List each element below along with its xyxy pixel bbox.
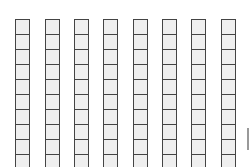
edge-marker <box>247 128 249 150</box>
grid-cell[interactable] <box>162 154 177 167</box>
grid-cell[interactable] <box>103 154 118 167</box>
grid-cell[interactable] <box>133 109 148 125</box>
grid-cell[interactable] <box>45 109 60 125</box>
grid-cell[interactable] <box>103 124 118 140</box>
grid-cell[interactable] <box>45 64 60 80</box>
grid-cell[interactable] <box>162 109 177 125</box>
grid-cell[interactable] <box>221 79 236 95</box>
grid-cell[interactable] <box>221 94 236 110</box>
grid-cell[interactable] <box>15 49 30 65</box>
grid-column <box>45 20 59 167</box>
grid-cell[interactable] <box>103 139 118 155</box>
grid-cell[interactable] <box>45 34 60 50</box>
grid-cell[interactable] <box>162 49 177 65</box>
grid-column <box>103 20 117 167</box>
grid-column <box>133 20 147 167</box>
grid-cell[interactable] <box>45 124 60 140</box>
grid-cell[interactable] <box>15 94 30 110</box>
grid-cell[interactable] <box>191 109 206 125</box>
grid-cell[interactable] <box>191 49 206 65</box>
grid-cell[interactable] <box>221 109 236 125</box>
grid-cell[interactable] <box>45 139 60 155</box>
grid-column <box>221 20 235 167</box>
grid-cell[interactable] <box>221 139 236 155</box>
grid-cell[interactable] <box>15 19 30 35</box>
grid-cell[interactable] <box>15 154 30 167</box>
grid-cell[interactable] <box>74 79 89 95</box>
grid-cell[interactable] <box>191 34 206 50</box>
grid-cell[interactable] <box>191 139 206 155</box>
grid-column <box>74 20 88 167</box>
grid-cell[interactable] <box>74 139 89 155</box>
grid-cell[interactable] <box>162 94 177 110</box>
grid-cell[interactable] <box>15 34 30 50</box>
grid-cell[interactable] <box>162 139 177 155</box>
grid-column <box>15 20 29 167</box>
grid-cell[interactable] <box>45 154 60 167</box>
grid-cell[interactable] <box>221 49 236 65</box>
grid-cell[interactable] <box>133 94 148 110</box>
grid-cell[interactable] <box>15 109 30 125</box>
grid-cell[interactable] <box>45 94 60 110</box>
grid-cell[interactable] <box>133 19 148 35</box>
grid-cell[interactable] <box>74 19 89 35</box>
grid-cell[interactable] <box>162 34 177 50</box>
grid-cell[interactable] <box>45 79 60 95</box>
grid-cell[interactable] <box>74 49 89 65</box>
grid-cell[interactable] <box>15 64 30 80</box>
grid-cell[interactable] <box>162 79 177 95</box>
grid-cell[interactable] <box>103 109 118 125</box>
grid-cell[interactable] <box>162 19 177 35</box>
grid-cell[interactable] <box>15 79 30 95</box>
grid-cell[interactable] <box>162 64 177 80</box>
grid-cell[interactable] <box>74 154 89 167</box>
grid-cell[interactable] <box>191 19 206 35</box>
grid-cell[interactable] <box>133 34 148 50</box>
grid-cell[interactable] <box>162 124 177 140</box>
grid-cell[interactable] <box>221 64 236 80</box>
grid-column <box>162 20 176 167</box>
grid-cell[interactable] <box>74 34 89 50</box>
grid-cell[interactable] <box>133 124 148 140</box>
grid-cell[interactable] <box>191 154 206 167</box>
grid-cell[interactable] <box>74 109 89 125</box>
grid-cell[interactable] <box>191 94 206 110</box>
grid-cell[interactable] <box>221 34 236 50</box>
grid-column <box>191 20 205 167</box>
grid-cell[interactable] <box>15 139 30 155</box>
grid-cell[interactable] <box>133 64 148 80</box>
grid-cell[interactable] <box>103 79 118 95</box>
grid-cell[interactable] <box>191 64 206 80</box>
grid-cell[interactable] <box>45 19 60 35</box>
grid-cell[interactable] <box>103 34 118 50</box>
grid-cell[interactable] <box>103 49 118 65</box>
grid-cell[interactable] <box>103 64 118 80</box>
grid-cell[interactable] <box>133 139 148 155</box>
grid-cell[interactable] <box>133 49 148 65</box>
grid-cell[interactable] <box>45 49 60 65</box>
grid-cell[interactable] <box>221 124 236 140</box>
grid-cell[interactable] <box>15 124 30 140</box>
grid-cell[interactable] <box>74 94 89 110</box>
grid-cell[interactable] <box>74 124 89 140</box>
grid-cell[interactable] <box>103 94 118 110</box>
grid-cell[interactable] <box>133 154 148 167</box>
grid-cell[interactable] <box>221 19 236 35</box>
grid-cell[interactable] <box>133 79 148 95</box>
grid-cell[interactable] <box>103 19 118 35</box>
grid-cell[interactable] <box>221 154 236 167</box>
grid-cell[interactable] <box>74 64 89 80</box>
grid-cell[interactable] <box>191 124 206 140</box>
grid-cell[interactable] <box>191 79 206 95</box>
